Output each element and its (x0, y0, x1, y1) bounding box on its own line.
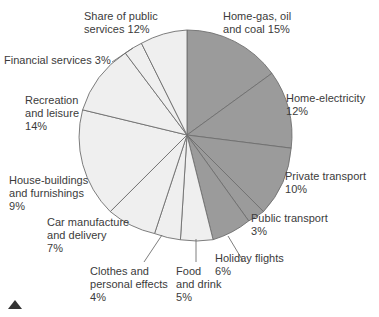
label-house-buildings-furnishings: House-buildings and furnishings 9% (9, 174, 88, 214)
label-home-electricity: Home-electricity 12% (286, 92, 365, 118)
leader-line-clothes (144, 235, 162, 262)
label-financial-services: Financial services 3% (4, 54, 111, 67)
label-share-of-public-services: Share of public services 12% (84, 10, 158, 36)
label-holiday-flights: Holiday flights 6% (215, 252, 284, 278)
label-public-transport: Public transport 3% (251, 212, 328, 238)
label-recreation-leisure: Recreation and leisure 14% (25, 94, 79, 134)
label-private-transport: Private transport 10% (285, 170, 366, 196)
pie-chart-figure: Home-gas, oil and coal 15% Home-electric… (0, 0, 379, 317)
label-car-manufacture-delivery: Car manufacture and delivery 7% (47, 216, 129, 256)
label-home-gas-oil-coal: Home-gas, oil and coal 15% (223, 10, 291, 36)
page-corner-marker-icon (8, 300, 22, 309)
label-food-and-drink: Food and drink 5% (176, 265, 221, 305)
label-clothes-personal-effects: Clothes and personal effects 4% (90, 265, 168, 305)
